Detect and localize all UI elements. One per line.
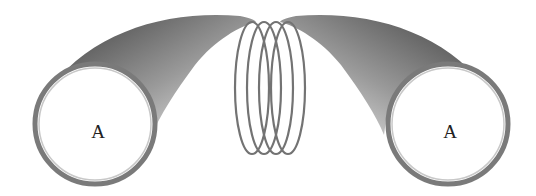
right-tube-opening: A [388,64,508,184]
left-tube-opening: A [35,64,155,184]
tube-coil-diagram: A A [0,0,536,196]
diagram-canvas: A A [0,0,536,196]
center-coil [235,22,305,154]
left-tube-label: A [91,121,105,142]
right-tube-label: A [443,121,457,142]
